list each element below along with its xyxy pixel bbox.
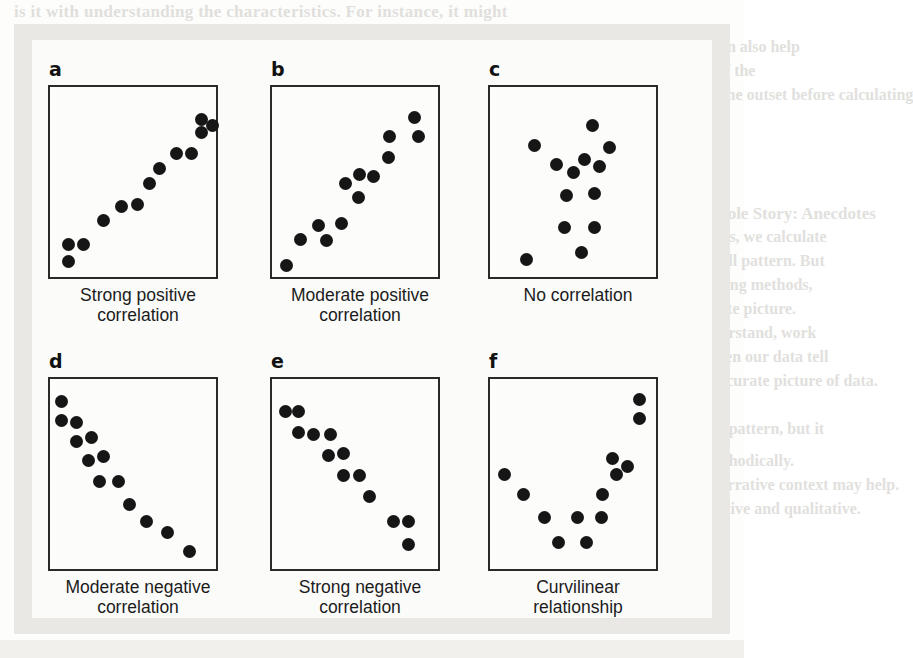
plot-frame-c [488, 85, 658, 279]
scatter-point [292, 405, 305, 418]
scatter-point [322, 449, 335, 462]
caption-line: correlation [260, 598, 460, 618]
caption-line: Strong negative [260, 578, 460, 598]
panel-letter-f: f [489, 352, 696, 371]
scatter-point [312, 219, 325, 232]
scatter-point [352, 191, 365, 204]
caption-line: Curvilinear [478, 578, 678, 598]
scatter-point [402, 538, 415, 551]
scatter-point [337, 447, 350, 460]
scatter-point [593, 160, 606, 173]
scatter-point [115, 200, 128, 213]
caption-line: correlation [260, 306, 460, 326]
caption-line: correlation [38, 598, 238, 618]
scatter-point [558, 221, 571, 234]
scatter-point [578, 153, 591, 166]
scatter-point [550, 158, 563, 171]
figure-plate: a Strong positive correlation b Moderate… [14, 24, 730, 634]
scatter-point [97, 214, 110, 227]
scatter-point [320, 234, 333, 247]
scatter-point [538, 511, 551, 524]
scatter-point [279, 405, 292, 418]
plot-frame-a [48, 85, 218, 279]
scatterplot-panel-grid: a Strong positive correlation b Moderate… [44, 60, 714, 630]
scatterplot-panel-e: e Strong negative correlation [266, 352, 478, 617]
scatter-point [552, 536, 565, 549]
scatter-point [367, 170, 380, 183]
scatter-point [206, 119, 219, 132]
scatter-point [408, 111, 421, 124]
panel-letter-c: c [489, 60, 696, 79]
scatterplot-panel-f: f Curvilinear relationship [484, 352, 696, 617]
scatter-point [55, 395, 68, 408]
scatter-point [335, 217, 348, 230]
caption-line: Strong positive [38, 286, 238, 306]
scatter-point [131, 198, 144, 211]
scatterplot-panel-c: c No correlation [484, 60, 696, 306]
scatter-point [383, 130, 396, 143]
scatter-point [161, 526, 174, 539]
panel-caption-d: Moderate negative correlation [38, 578, 238, 617]
scatter-point [571, 511, 584, 524]
scatter-point [324, 428, 337, 441]
plot-frame-b [270, 85, 440, 279]
panel-letter-d: d [49, 352, 256, 371]
panel-caption-c: No correlation [478, 286, 678, 306]
scatter-point [62, 238, 75, 251]
scatterplot-panel-b: b Moderate positive correlation [266, 60, 478, 325]
caption-line: Moderate negative [38, 578, 238, 598]
scatter-point [588, 187, 601, 200]
caption-line: relationship [478, 598, 678, 618]
scatter-point [412, 130, 425, 143]
scatter-point [143, 177, 156, 190]
scatter-point [402, 515, 415, 528]
scatter-point [353, 469, 366, 482]
panel-caption-b: Moderate positive correlation [260, 286, 460, 325]
scatter-point [633, 412, 646, 425]
scatterplot-panel-a: a Strong positive correlation [44, 60, 256, 325]
scatter-point [55, 414, 68, 427]
scatter-point [292, 426, 305, 439]
scatter-point [586, 119, 599, 132]
scatter-point [517, 488, 530, 501]
scatter-point [528, 139, 541, 152]
scatter-point [183, 545, 196, 558]
scatter-point [606, 452, 619, 465]
panel-caption-f: Curvilinear relationship [478, 578, 678, 617]
scatter-point [85, 431, 98, 444]
scatter-point [353, 168, 366, 181]
caption-line: No correlation [478, 286, 678, 306]
scatter-point [382, 151, 395, 164]
scatter-point [62, 255, 75, 268]
scatter-point [185, 147, 198, 160]
scatter-point [580, 536, 593, 549]
scatter-point [560, 189, 573, 202]
scatter-point [633, 393, 646, 406]
scatter-point [77, 238, 90, 251]
scatter-point [153, 162, 166, 175]
scatter-point [596, 488, 609, 501]
scatter-point [170, 147, 183, 160]
scatter-point [588, 221, 601, 234]
caption-line: correlation [38, 306, 238, 326]
panel-caption-e: Strong negative correlation [260, 578, 460, 617]
scatter-point [387, 515, 400, 528]
scatter-point [280, 259, 293, 272]
scatter-point [595, 511, 608, 524]
scatter-point [603, 141, 616, 154]
scatter-point [70, 435, 83, 448]
panel-letter-e: e [271, 352, 478, 371]
background-text-line: is it with understanding the characteris… [14, 2, 508, 22]
scatter-point [498, 468, 511, 481]
panel-caption-a: Strong positive correlation [38, 286, 238, 325]
plot-frame-f [488, 377, 658, 571]
caption-line: Moderate positive [260, 286, 460, 306]
panel-letter-a: a [49, 60, 256, 79]
scatter-point [294, 233, 307, 246]
scatter-point [363, 490, 376, 503]
scatter-point [575, 246, 588, 259]
scatter-point [520, 253, 533, 266]
scatter-point [112, 475, 125, 488]
scatter-point [339, 177, 352, 190]
scatter-point [307, 428, 320, 441]
